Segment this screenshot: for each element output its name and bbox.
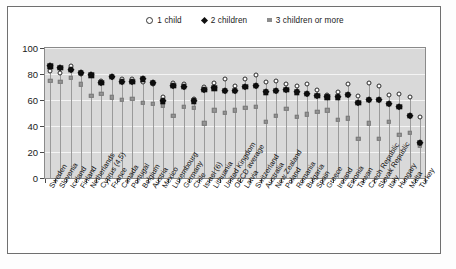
legend-item-3-children-or-more: 3 children or more bbox=[267, 16, 343, 25]
data-point-3-children bbox=[366, 121, 370, 125]
x-axis-labels: SwedenSloveniaIcelandFinlandNetherlandsC… bbox=[0, 183, 456, 261]
data-point-1-child bbox=[356, 94, 361, 99]
data-point-3-children bbox=[68, 76, 72, 80]
data-point-1-child bbox=[243, 77, 248, 82]
filled-square-icon bbox=[267, 18, 272, 23]
data-point-2-children bbox=[47, 63, 52, 68]
data-point-3-children bbox=[130, 96, 134, 100]
data-point-2-children bbox=[99, 80, 104, 85]
data-point-2-children bbox=[417, 140, 422, 145]
data-point-3-children bbox=[253, 104, 257, 108]
data-point-1-child bbox=[366, 81, 371, 86]
gridline bbox=[45, 48, 425, 49]
stem-line bbox=[81, 73, 82, 178]
y-axis-tick-label: 20 bbox=[14, 147, 38, 158]
y-axis-tick-label: 0 bbox=[14, 173, 38, 184]
data-point-3-children bbox=[89, 94, 93, 98]
data-point-3-children bbox=[335, 117, 339, 121]
y-axis: 020406080100 bbox=[14, 40, 44, 186]
filled-diamond-icon bbox=[201, 16, 208, 23]
data-point-1-child bbox=[304, 82, 309, 87]
y-axis-tick-label: 60 bbox=[14, 95, 38, 106]
data-point-2-children bbox=[345, 92, 350, 97]
data-point-1-child bbox=[253, 73, 258, 78]
plot-area bbox=[44, 47, 426, 179]
data-point-1-child bbox=[387, 92, 392, 97]
data-point-3-children bbox=[223, 111, 227, 115]
open-circle-icon bbox=[146, 17, 153, 24]
data-point-2-children bbox=[201, 87, 206, 92]
stem-line bbox=[297, 86, 298, 178]
data-point-2-children bbox=[325, 95, 330, 100]
data-point-3-children bbox=[79, 82, 83, 86]
data-point-3-children bbox=[407, 130, 411, 134]
data-point-1-child bbox=[222, 77, 227, 82]
data-point-2-children bbox=[222, 88, 227, 93]
data-point-3-children bbox=[202, 121, 206, 125]
data-point-3-children bbox=[315, 109, 319, 113]
data-point-1-child bbox=[274, 78, 279, 83]
data-point-3-children bbox=[58, 80, 62, 84]
data-point-3-children bbox=[294, 115, 298, 119]
data-point-3-children bbox=[243, 106, 247, 110]
y-axis-tick-label: 80 bbox=[14, 69, 38, 80]
data-point-2-children bbox=[304, 91, 309, 96]
data-point-3-children bbox=[151, 102, 155, 106]
legend-item-2-children: 2 children bbox=[202, 16, 248, 25]
data-point-1-child bbox=[263, 79, 268, 84]
data-point-3-children bbox=[305, 112, 309, 116]
data-point-2-children bbox=[191, 99, 196, 104]
data-point-2-children bbox=[171, 83, 176, 88]
data-point-2-children bbox=[181, 84, 186, 89]
data-point-1-child bbox=[315, 87, 320, 92]
stem-line bbox=[91, 75, 92, 178]
chart-figure: 1 child 2 children 3 children or more 02… bbox=[0, 0, 456, 269]
data-point-3-children bbox=[212, 108, 216, 112]
data-point-3-children bbox=[346, 116, 350, 120]
data-point-2-children bbox=[109, 74, 114, 79]
data-point-3-children bbox=[274, 113, 278, 117]
data-point-2-children bbox=[273, 88, 278, 93]
data-point-2-children bbox=[294, 89, 299, 94]
data-point-2-children bbox=[58, 65, 63, 70]
data-point-3-children bbox=[48, 78, 52, 82]
data-point-2-children bbox=[386, 101, 391, 106]
data-point-2-children bbox=[263, 89, 268, 94]
data-point-3-children bbox=[397, 133, 401, 137]
chart-legend: 1 child 2 children 3 children or more bbox=[110, 13, 380, 27]
data-point-2-children bbox=[407, 113, 412, 118]
data-point-2-children bbox=[335, 95, 340, 100]
data-point-3-children bbox=[264, 120, 268, 124]
stem-line bbox=[50, 66, 51, 178]
legend-label: 1 child bbox=[157, 16, 181, 25]
data-point-2-children bbox=[356, 100, 361, 105]
data-point-2-children bbox=[68, 67, 73, 72]
data-point-3-children bbox=[377, 137, 381, 141]
legend-label: 2 children bbox=[211, 16, 248, 25]
data-point-3-children bbox=[140, 100, 144, 104]
data-point-1-child bbox=[397, 91, 402, 96]
y-axis-tick-label: 100 bbox=[14, 43, 38, 54]
data-point-3-children bbox=[192, 106, 196, 110]
data-point-3-children bbox=[110, 95, 114, 99]
data-point-2-children bbox=[284, 87, 289, 92]
data-point-3-children bbox=[233, 108, 237, 112]
data-point-1-child bbox=[417, 114, 422, 119]
data-point-3-children bbox=[356, 137, 360, 141]
data-point-3-children bbox=[171, 113, 175, 117]
data-point-3-children bbox=[284, 107, 288, 111]
data-point-3-children bbox=[120, 98, 124, 102]
data-point-1-child bbox=[376, 83, 381, 88]
data-point-2-children bbox=[160, 99, 165, 104]
data-point-2-children bbox=[253, 83, 258, 88]
data-point-2-children bbox=[150, 80, 155, 85]
stem-line bbox=[173, 83, 174, 178]
data-point-2-children bbox=[212, 86, 217, 91]
data-point-3-children bbox=[387, 120, 391, 124]
legend-item-1-child: 1 child bbox=[146, 16, 181, 25]
data-point-2-children bbox=[376, 97, 381, 102]
data-point-1-child bbox=[407, 95, 412, 100]
data-point-2-children bbox=[314, 93, 319, 98]
data-point-1-child bbox=[345, 82, 350, 87]
data-point-2-children bbox=[366, 97, 371, 102]
